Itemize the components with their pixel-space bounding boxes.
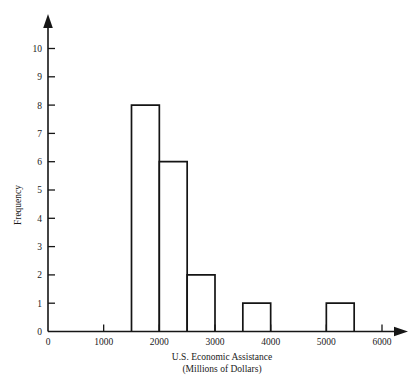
y-tick-label: 4 xyxy=(37,214,42,224)
x-tick-label: 6000 xyxy=(373,337,392,347)
histogram-bar xyxy=(159,162,187,332)
bars-group xyxy=(132,105,355,331)
y-tick-label: 9 xyxy=(37,72,42,82)
chart-canvas: 012345678910 Frequency 01000200030004000… xyxy=(0,0,416,385)
x-axis: 0100020003000400050006000 U.S. Economic … xyxy=(46,325,408,376)
y-tick-label: 7 xyxy=(37,129,42,139)
y-tick-label: 5 xyxy=(37,185,42,195)
x-axis-arrow-icon xyxy=(394,327,408,337)
y-tick-label: 8 xyxy=(37,101,42,111)
x-tick-label: 0 xyxy=(46,337,51,347)
histogram-bar xyxy=(132,105,160,331)
x-tick-label: 5000 xyxy=(317,337,336,347)
histogram-bar xyxy=(326,303,354,331)
y-axis: 012345678910 Frequency xyxy=(13,14,55,337)
x-axis-title-line2: (Millions of Dollars) xyxy=(182,364,261,375)
histogram-figure: 012345678910 Frequency 01000200030004000… xyxy=(0,0,416,385)
y-tick-label: 6 xyxy=(37,157,42,167)
y-tick-label: 2 xyxy=(37,270,42,280)
y-tick-label: 0 xyxy=(37,327,42,337)
x-axis-title-line1: U.S. Economic Assistance xyxy=(172,352,272,362)
y-ticks-group: 012345678910 xyxy=(33,44,56,337)
histogram-bar xyxy=(187,275,215,332)
plot-area xyxy=(132,105,355,331)
x-tick-label: 1000 xyxy=(94,337,113,347)
histogram-bar xyxy=(243,303,271,331)
y-axis-arrow-icon xyxy=(43,14,53,28)
x-tick-label: 2000 xyxy=(150,337,169,347)
y-tick-label: 1 xyxy=(37,299,42,309)
y-tick-label: 3 xyxy=(37,242,42,252)
y-axis-title: Frequency xyxy=(13,185,23,225)
x-tick-label: 4000 xyxy=(261,337,280,347)
x-tick-label: 3000 xyxy=(206,337,225,347)
y-tick-label: 10 xyxy=(33,44,43,54)
